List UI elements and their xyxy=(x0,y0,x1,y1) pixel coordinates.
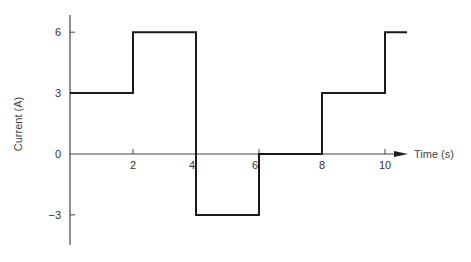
y-tick-label: 0 xyxy=(55,148,61,160)
axes xyxy=(70,15,408,245)
x-tick-label: 10 xyxy=(379,159,391,171)
x-tick-label: 8 xyxy=(319,159,325,171)
step-chart: 246810630−3 Current (A) Time (s) xyxy=(0,0,471,262)
y-axis-label: Current (A) xyxy=(12,97,24,151)
current-step-line xyxy=(70,32,407,215)
x-tick-label: 2 xyxy=(130,159,136,171)
x-tick-label: 4 xyxy=(189,159,195,171)
y-tick-label: −3 xyxy=(48,209,61,221)
x-axis-label: Time (s) xyxy=(414,148,454,160)
x-axis-arrow-icon xyxy=(394,151,408,157)
y-tick-label: 6 xyxy=(55,26,61,38)
ticks: 246810630−3 xyxy=(48,26,391,221)
y-tick-label: 3 xyxy=(55,87,61,99)
x-tick-label: 6 xyxy=(252,159,258,171)
